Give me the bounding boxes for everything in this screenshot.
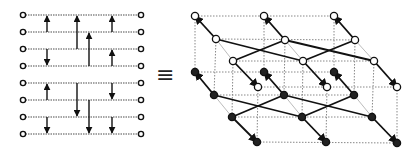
open-node	[212, 35, 219, 42]
wire-output-node	[138, 63, 143, 68]
filled-node	[191, 68, 198, 75]
filled-node	[393, 139, 400, 146]
edge-line	[302, 95, 354, 117]
wire-input-node	[20, 12, 25, 17]
equivalence-symbol: ≡	[156, 64, 174, 86]
edge-line	[195, 16, 216, 39]
open-node	[229, 57, 236, 64]
edge-line	[374, 61, 397, 87]
wire-output-node	[138, 46, 143, 51]
edge-line	[334, 72, 354, 95]
edge-line	[303, 40, 355, 61]
filled-node	[210, 91, 217, 98]
wire-input-node	[20, 29, 25, 34]
wire-output-node	[138, 29, 143, 34]
edge-line	[264, 72, 284, 95]
wire-input-node	[20, 131, 25, 136]
edge-line	[195, 72, 214, 95]
edge-line	[303, 61, 327, 87]
open-node	[260, 12, 267, 19]
wire-output-node	[138, 131, 143, 136]
sorting-network-diagram	[0, 0, 417, 155]
open-node	[299, 57, 306, 64]
open-node	[191, 12, 198, 19]
open-node	[254, 83, 261, 90]
filled-node	[368, 113, 375, 120]
wire-input-node	[20, 80, 25, 85]
filled-node	[350, 91, 357, 98]
wire-output-node	[138, 80, 143, 85]
wire-input-node	[20, 46, 25, 51]
grid-line	[232, 61, 233, 117]
filled-node	[298, 113, 305, 120]
edge-line	[232, 95, 284, 117]
wire-input-node	[20, 114, 25, 119]
filled-node	[260, 68, 267, 75]
edge-line	[334, 16, 355, 40]
grid-line	[302, 61, 303, 117]
edge-line	[233, 40, 285, 61]
open-node	[351, 36, 358, 43]
open-node	[370, 57, 377, 64]
3d-lattice	[191, 12, 400, 146]
filled-node	[330, 68, 337, 75]
wire-output-node	[138, 12, 143, 17]
open-node	[323, 83, 330, 90]
open-node	[330, 12, 337, 19]
grid-line	[284, 40, 285, 95]
edge-line	[264, 16, 285, 40]
grid-line	[214, 39, 216, 95]
wire-input-node	[20, 63, 25, 68]
wire-output-node	[138, 97, 143, 102]
open-node	[281, 36, 288, 43]
filled-node	[322, 138, 329, 145]
edge-line	[302, 117, 326, 142]
wire-input-node	[20, 97, 25, 102]
edge-line	[232, 117, 257, 142]
grid-line	[372, 61, 374, 117]
filled-node	[228, 113, 235, 120]
comparator-network	[20, 12, 143, 136]
filled-node	[280, 91, 287, 98]
edge-line	[233, 61, 258, 87]
wire-output-node	[138, 114, 143, 119]
filled-node	[253, 138, 260, 145]
open-node	[393, 83, 400, 90]
edge-line	[372, 117, 397, 143]
